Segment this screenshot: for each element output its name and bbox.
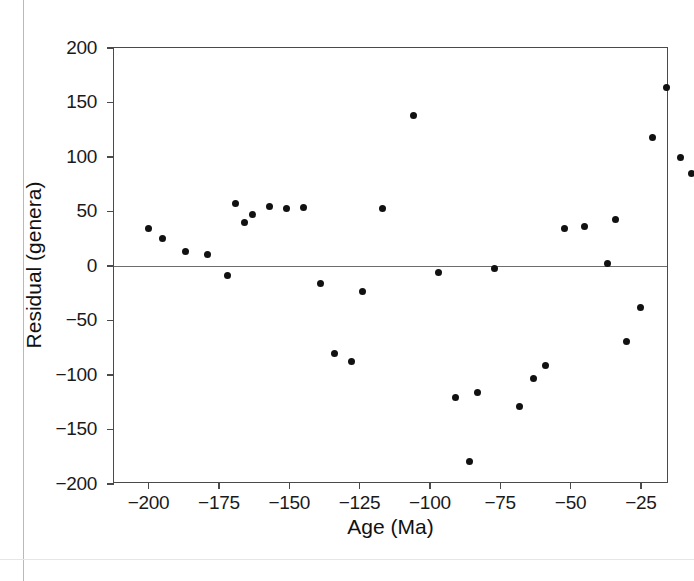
data-point bbox=[159, 235, 166, 242]
data-point bbox=[649, 134, 656, 141]
data-point bbox=[677, 154, 684, 161]
y-axis-tick: −150 bbox=[107, 429, 114, 430]
y-axis-tick: 50 bbox=[107, 211, 114, 212]
figure-page: 200150100500−50−100−150−200 −200−175−150… bbox=[0, 0, 694, 581]
x-axis-tick: −50 bbox=[570, 482, 571, 489]
scatter-plot-figure: 200150100500−50−100−150−200 −200−175−150… bbox=[0, 0, 694, 581]
data-point bbox=[232, 200, 239, 207]
y-axis-tick-label: −100 bbox=[55, 364, 97, 386]
plot-area: 200150100500−50−100−150−200 −200−175−150… bbox=[113, 47, 668, 483]
x-axis-tick-label: −150 bbox=[268, 492, 310, 514]
data-point bbox=[410, 112, 417, 119]
x-axis-tick-label: −75 bbox=[485, 492, 516, 514]
x-axis-tick-label: −125 bbox=[339, 492, 381, 514]
x-axis-tick-label: −100 bbox=[409, 492, 451, 514]
data-point bbox=[491, 265, 498, 272]
y-axis-tick-label: 150 bbox=[66, 91, 97, 113]
data-point bbox=[348, 358, 355, 365]
x-axis-tick-label: −50 bbox=[555, 492, 586, 514]
y-axis-tick-label: 200 bbox=[66, 37, 97, 59]
data-point bbox=[612, 216, 619, 223]
data-point bbox=[145, 225, 152, 232]
y-axis-tick-label: −150 bbox=[55, 418, 97, 440]
data-point bbox=[317, 280, 324, 287]
data-point bbox=[379, 205, 386, 212]
x-axis-tick: −75 bbox=[500, 482, 501, 489]
data-point bbox=[224, 272, 231, 279]
data-point bbox=[452, 394, 459, 401]
y-axis-tick-label: 100 bbox=[66, 146, 97, 168]
x-axis-tick-label: −200 bbox=[128, 492, 170, 514]
data-point bbox=[637, 304, 644, 311]
x-axis-tick: −125 bbox=[359, 482, 360, 489]
x-axis-tick: −25 bbox=[640, 482, 641, 489]
data-point bbox=[474, 389, 481, 396]
y-axis-tick: 100 bbox=[107, 156, 114, 157]
data-point bbox=[241, 219, 248, 226]
data-point bbox=[663, 84, 670, 91]
data-point bbox=[283, 205, 290, 212]
data-point bbox=[561, 225, 568, 232]
data-point bbox=[359, 288, 366, 295]
data-point bbox=[516, 403, 523, 410]
y-axis-title: Residual (genera) bbox=[19, 47, 49, 483]
y-axis-tick: 0 bbox=[107, 265, 114, 266]
data-point bbox=[688, 170, 694, 177]
y-axis-tick-label: −50 bbox=[66, 309, 97, 331]
data-point bbox=[581, 223, 588, 230]
x-axis-tick: −175 bbox=[218, 482, 219, 489]
data-point bbox=[623, 338, 630, 345]
y-axis-tick: −100 bbox=[107, 374, 114, 375]
data-point bbox=[542, 362, 549, 369]
data-point bbox=[249, 211, 256, 218]
y-axis-tick: −50 bbox=[107, 320, 114, 321]
y-axis-tick-label: 50 bbox=[76, 200, 97, 222]
data-point bbox=[604, 260, 611, 267]
data-point bbox=[530, 375, 537, 382]
y-axis-tick: −200 bbox=[107, 483, 114, 484]
data-point bbox=[435, 269, 442, 276]
data-point bbox=[331, 350, 338, 357]
y-axis-tick: 150 bbox=[107, 102, 114, 103]
x-axis-tick-label: −25 bbox=[625, 492, 656, 514]
x-axis-tick: −100 bbox=[429, 482, 430, 489]
data-point bbox=[182, 248, 189, 255]
y-axis-tick-label: −200 bbox=[55, 473, 97, 495]
x-axis-title: Age (Ma) bbox=[113, 515, 668, 539]
x-axis-tick: −150 bbox=[289, 482, 290, 489]
data-point bbox=[300, 204, 307, 211]
data-point bbox=[466, 458, 473, 465]
y-axis-tick: 200 bbox=[107, 47, 114, 48]
data-point bbox=[266, 203, 273, 210]
zero-reference-line bbox=[114, 266, 667, 267]
y-axis-tick-label: 0 bbox=[87, 255, 97, 277]
data-point bbox=[204, 251, 211, 258]
x-axis-tick: −200 bbox=[148, 482, 149, 489]
x-axis-tick-label: −175 bbox=[198, 492, 240, 514]
